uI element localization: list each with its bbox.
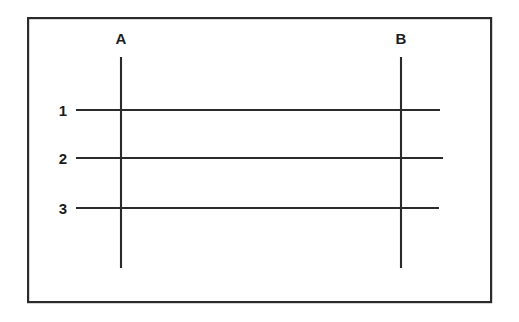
label-vertical-a: A [115,31,126,46]
line-diagram-svg [0,0,519,322]
label-horizontal-1: 1 [59,103,68,118]
label-vertical-b: B [395,31,406,46]
label-horizontal-2: 2 [59,151,68,166]
outer-border-rectangle [28,18,491,302]
figure-canvas: A B 1 2 3 [0,0,519,322]
label-horizontal-3: 3 [59,201,68,216]
